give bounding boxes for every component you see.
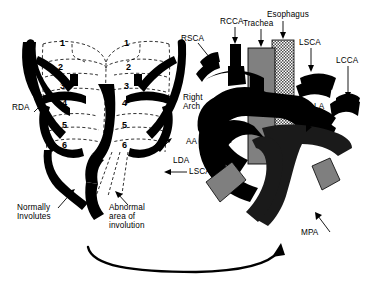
label-lsca-left: LSCA bbox=[189, 167, 211, 176]
arch-number-right-4: 4 bbox=[122, 99, 127, 108]
normally-involutes-line1: Normally bbox=[17, 203, 51, 212]
label-lcca: LCCA bbox=[336, 56, 358, 65]
right-arch-line1: Right bbox=[183, 93, 203, 102]
abnormal-area-line2: area of bbox=[109, 212, 145, 221]
arch-number-left-3: 3 bbox=[60, 82, 65, 91]
label-rsca: RSCA bbox=[181, 34, 204, 43]
label-la: LA bbox=[314, 102, 324, 111]
left-bronchus-shape bbox=[312, 158, 340, 190]
label-right-arch: Right Arch bbox=[183, 93, 203, 111]
label-aa: AA bbox=[186, 137, 197, 146]
arch-number-right-5: 5 bbox=[122, 121, 127, 130]
lsca-left-arrow bbox=[164, 169, 187, 175]
label-abnormal-area-of-involution: Abnormal area of involution bbox=[109, 203, 145, 231]
arch-number-left-5: 5 bbox=[62, 121, 67, 130]
ascending-aorta-trunk bbox=[85, 84, 115, 220]
label-normally-involutes: Normally Involutes bbox=[17, 203, 51, 221]
arch-number-right-3: 3 bbox=[124, 82, 129, 91]
right-panel-group bbox=[196, 21, 360, 232]
arch-number-left-6: 6 bbox=[62, 141, 67, 150]
label-rcca: RCCA bbox=[220, 17, 244, 26]
left-panel-group bbox=[22, 39, 186, 220]
arch-number-left-1: 1 bbox=[60, 39, 65, 48]
arch-number-right-2: 2 bbox=[126, 63, 131, 72]
label-mpa: MPA bbox=[301, 228, 318, 237]
figure-canvas: 1 2 3 4 5 6 1 2 3 4 5 6 RDA LDA LSCA Nor… bbox=[0, 0, 375, 283]
arch-number-right-6: 6 bbox=[122, 141, 127, 150]
label-esophagus: Esophagus bbox=[267, 10, 309, 19]
progression-arrowhead bbox=[272, 243, 285, 257]
label-lsca-right: LSCA bbox=[299, 38, 321, 47]
label-lda: LDA bbox=[173, 156, 189, 165]
arch-number-left-4: 4 bbox=[62, 99, 67, 108]
abnormal-area-line3: involution bbox=[109, 221, 145, 230]
label-rda: RDA bbox=[12, 103, 30, 112]
progression-arrow bbox=[88, 247, 278, 272]
label-trachea: Trachea bbox=[243, 19, 273, 28]
arch-number-right-1: 1 bbox=[124, 39, 129, 48]
right-arch-line2: Arch bbox=[183, 102, 203, 111]
abnormal-area-line1: Abnormal bbox=[109, 203, 145, 212]
normally-involutes-line2: Involutes bbox=[17, 212, 51, 221]
arch-number-left-2: 2 bbox=[58, 63, 63, 72]
